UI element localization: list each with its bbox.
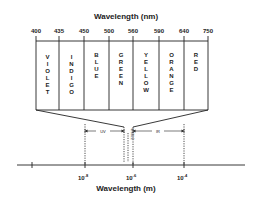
svg-text:B: B [94,52,99,58]
zoom-funnel [36,110,208,127]
tick-1e-8: 10-8 [78,173,89,181]
band-blue: B L U E [94,52,99,79]
svg-text:R: R [119,59,124,65]
svg-text:O: O [45,68,50,74]
funnel-right [133,110,208,127]
svg-text:E: E [194,59,198,65]
svg-text:D: D [69,68,74,74]
svg-text:O: O [169,52,174,58]
visible-label: VISIBLE [130,128,134,139]
svg-text:T: T [46,89,50,95]
spectrum-diagram: Wavelength (nm) 400 435 450 500 560 590 … [0,0,263,203]
svg-text:L: L [144,66,148,72]
ir-label: IR [156,129,160,134]
svg-text:L: L [95,59,99,65]
svg-text:U: U [94,66,98,72]
svg-text:A: A [169,66,174,72]
svg-text:G: G [69,82,74,88]
svg-text:R: R [169,59,174,65]
tick-400: 400 [31,28,42,34]
svg-text:E: E [119,73,123,79]
tick-640: 640 [179,28,190,34]
svg-text:E: E [169,87,173,93]
svg-text:N: N [169,73,173,79]
svg-text:G: G [169,80,174,86]
tick-1e-4: 10-4 [177,173,188,181]
svg-text:W: W [143,87,149,93]
band-red: R E D [194,52,199,72]
band-orange: O R A N G E [169,52,174,93]
svg-text:G: G [119,52,124,58]
svg-text:O: O [69,89,74,95]
svg-text:L: L [144,73,148,79]
band-indigo: I N D I G O [69,54,74,95]
tick-1e-6: 10-6 [126,173,137,181]
svg-text:L: L [46,75,50,81]
bottom-tick-labels: 10-8 10-6 10-4 [78,173,188,181]
top-axis-title: Wavelength (nm) [94,12,158,21]
svg-text:V: V [45,54,49,60]
svg-text:I: I [47,61,49,67]
svg-text:Y: Y [144,52,148,58]
tick-750: 750 [203,28,214,34]
tick-450: 450 [79,28,90,34]
uv-label: UV [100,129,106,134]
svg-text:D: D [194,66,199,72]
band-yellow: Y E L L O W [143,52,149,93]
svg-text:I: I [71,75,73,81]
svg-text:E: E [119,66,123,72]
svg-text:E: E [94,73,98,79]
bottom-axis-title: Wavelength (m) [96,184,156,193]
svg-text:E: E [144,59,148,65]
svg-text:N: N [69,61,73,67]
svg-text:O: O [144,80,149,86]
tick-500: 500 [104,28,115,34]
bottom-axis [17,162,245,168]
funnel-left [36,110,124,127]
tick-590: 590 [154,28,165,34]
svg-text:E: E [45,82,49,88]
band-violet: V I O L E T [45,54,50,95]
svg-text:R: R [194,52,199,58]
svg-text:N: N [119,80,123,86]
tick-435: 435 [54,28,65,34]
band-green: G R E E N [119,52,124,86]
top-tick-labels: 400 435 450 500 560 590 640 750 [31,28,214,34]
tick-560: 560 [128,28,139,34]
svg-text:I: I [71,54,73,60]
